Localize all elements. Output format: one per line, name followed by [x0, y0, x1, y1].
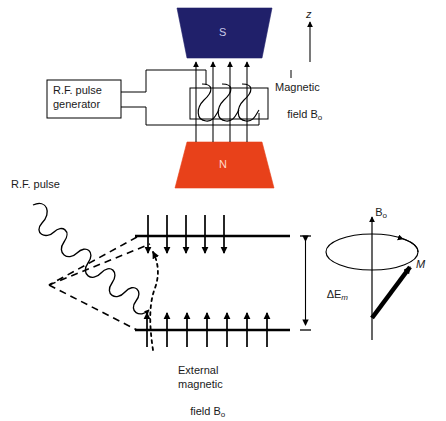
rf-pulse-wave	[33, 204, 149, 314]
magnetic-field-subscript: o	[318, 113, 322, 122]
magnetic-field-symbol: B	[310, 108, 317, 120]
magnetic-field-prefix: field	[287, 108, 310, 120]
magnetization-label: M	[416, 258, 425, 271]
transition-cone-dashed	[49, 237, 150, 330]
magnetic-field-label-line2: field Bo	[275, 95, 322, 137]
precession-axis-symbol: B	[375, 206, 382, 218]
energy-gap-label: ΔEm	[315, 275, 348, 317]
precession-axis-subscript: o	[383, 211, 387, 220]
north-pole-label: N	[219, 158, 227, 170]
rf-pulse-label: R.F. pulse	[11, 178, 60, 191]
external-field-subscript: o	[221, 410, 225, 419]
upper-level-spin-arrows	[148, 215, 224, 253]
rf-generator-label-line1: R.F. pulse	[53, 84, 102, 97]
energy-gap-subscript: m	[341, 293, 348, 302]
energy-gap-delta: Δ	[327, 288, 334, 300]
figure-canvas: S N R.F. pulse generator Magnetic field …	[0, 0, 446, 421]
external-field-prefix: field	[190, 405, 213, 417]
precession-direction-arrow	[403, 239, 418, 252]
magnetization-vector	[372, 267, 410, 318]
external-field-symbol: B	[213, 405, 220, 417]
rf-coil	[198, 84, 259, 121]
south-pole-label: S	[219, 26, 226, 38]
rf-generator-label-line2: generator	[53, 98, 100, 111]
external-field-label-line3: field Bo	[178, 392, 225, 421]
energy-gap-bracket	[300, 236, 311, 330]
magnetic-field-label-line1: Magnetic	[275, 81, 320, 94]
spin-flip-dotted-arrow	[150, 252, 158, 350]
external-field-label-line1: External	[178, 364, 218, 377]
z-axis-label: z	[306, 8, 312, 21]
precession-axis-label: Bo	[363, 193, 387, 235]
external-field-label-line2: magnetic	[178, 378, 223, 391]
